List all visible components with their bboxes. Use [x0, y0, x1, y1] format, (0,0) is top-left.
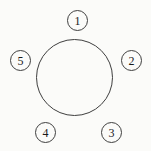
node-1-circle: 1	[67, 10, 88, 31]
node-3-circle: 3	[101, 122, 122, 143]
node-4-circle: 4	[35, 122, 56, 143]
main-circle	[36, 39, 113, 116]
node-5-label: 5	[18, 55, 24, 67]
node-2-circle: 2	[121, 50, 142, 71]
node-1-label: 1	[75, 15, 81, 27]
node-5-circle: 5	[10, 50, 31, 71]
node-4-label: 4	[43, 127, 49, 139]
node-2-label: 2	[129, 55, 135, 67]
diagram-canvas: 1 2 3 4 5	[0, 0, 151, 151]
node-3-label: 3	[109, 127, 115, 139]
